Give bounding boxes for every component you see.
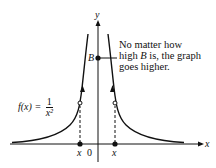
function-label: f(x) = 1 x² — [18, 97, 53, 118]
x-axis-arrow-icon — [198, 142, 204, 147]
annotation-line-2-post: is, the graph — [147, 50, 201, 61]
b-label: B — [88, 53, 94, 63]
up-arrow-left-icon — [80, 85, 85, 92]
y-axis-label: y — [95, 10, 99, 20]
y-axis-arrow-icon — [96, 20, 101, 26]
curve-left-branch — [12, 34, 88, 143]
open-point-left — [78, 101, 82, 105]
origin-label: 0 — [87, 148, 92, 158]
function-lhs: f(x) = — [18, 101, 41, 112]
annotation-line-2: high B is, the graph — [119, 50, 201, 61]
x-tick-label-left: x — [77, 148, 81, 158]
annotation-text: No matter how high B is, the graph goes … — [119, 39, 201, 72]
fraction-denominator: x² — [46, 108, 53, 118]
annotation-line-3: goes higher. — [119, 61, 201, 72]
graph-canvas — [0, 0, 216, 168]
b-point — [95, 55, 100, 60]
annotation-line-1: No matter how — [119, 39, 201, 50]
open-point-right — [113, 101, 117, 105]
x-point-left — [77, 141, 82, 146]
x-point-right — [112, 141, 117, 146]
function-fraction: 1 x² — [46, 97, 53, 118]
x-axis-label: x — [205, 139, 209, 149]
x-tick-label-right: x — [112, 148, 116, 158]
annotation-line-2-pre: high — [119, 50, 140, 61]
